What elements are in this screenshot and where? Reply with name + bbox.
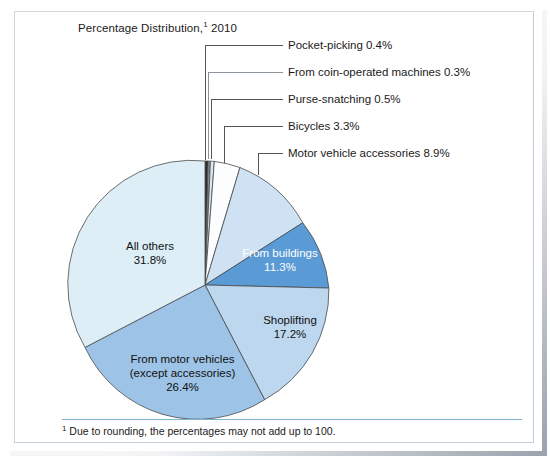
slice-label-shoplifting-line1: Shoplifting: [240, 313, 340, 327]
figure-root: Percentage Distribution,1 2010: [0, 0, 550, 459]
footnote-divider: [62, 419, 522, 420]
leader-lines: [206, 46, 284, 176]
slice-label-from-motor-vehicles-line1: From motor vehicles: [110, 352, 255, 366]
leader-line-bicycles: [224, 127, 283, 165]
slice-label-all-others-line1: All others: [95, 239, 205, 253]
callout-motor-vehicle-accessories: Motor vehicle accessories 8.9%: [288, 148, 450, 160]
callout-purse-snatching: Purse-snatching 0.5%: [288, 94, 401, 106]
footnote: 1 Due to rounding, the percentages may n…: [62, 425, 336, 437]
slice-label-shoplifting-line2: 17.2%: [240, 327, 340, 341]
slice-label-from-buildings: From buildings 11.3%: [225, 246, 335, 274]
callout-bicycles: Bicycles 3.3%: [288, 121, 360, 133]
slice-label-from-motor-vehicles-line3: 26.4%: [110, 380, 255, 394]
slice-label-from-buildings-line2: 11.3%: [225, 260, 335, 274]
slice-label-all-others: All others 31.8%: [95, 239, 205, 267]
slice-label-from-motor-vehicles-line2: (except accessories): [110, 366, 255, 380]
callout-coin-operated: From coin-operated machines 0.3%: [288, 67, 470, 79]
callout-pocket-picking: Pocket-picking 0.4%: [288, 40, 392, 52]
slice-label-from-buildings-line1: From buildings: [225, 246, 335, 260]
leader-line-purse-snatching: [212, 100, 284, 160]
footnote-text: Due to rounding, the percentages may not…: [66, 425, 335, 437]
slice-label-shoplifting: Shoplifting 17.2%: [240, 313, 340, 341]
slice-label-all-others-line2: 31.8%: [95, 253, 205, 267]
slice-label-from-motor-vehicles: From motor vehicles (except accessories)…: [110, 352, 255, 394]
leader-line-motor-vehicle-accessories: [258, 154, 283, 176]
leader-line-coin-operated: [209, 73, 284, 160]
leader-line-pocket-picking: [206, 46, 284, 161]
